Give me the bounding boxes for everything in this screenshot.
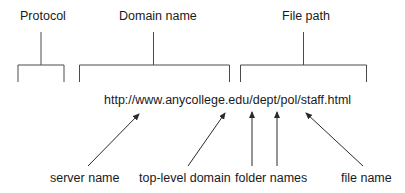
top-level-domain-arrow — [188, 113, 225, 166]
top-level-domain-label: top-level domain — [139, 172, 231, 185]
file-name-label: file name — [341, 172, 392, 185]
file-path-bracket — [241, 32, 367, 82]
file-name-arrow — [306, 113, 363, 166]
server-name-label: server name — [50, 172, 119, 185]
server-name-arrow — [88, 114, 139, 166]
file-path-label: File path — [282, 10, 330, 23]
domain-name-label: Domain name — [119, 10, 197, 23]
example-url: http://www.anycollege.edu/dept/pol/staff… — [104, 94, 351, 107]
folder-names-label: folder names — [235, 172, 307, 185]
protocol-bracket — [18, 32, 64, 82]
protocol-label: Protocol — [20, 10, 66, 23]
domain-name-bracket — [80, 32, 230, 82]
